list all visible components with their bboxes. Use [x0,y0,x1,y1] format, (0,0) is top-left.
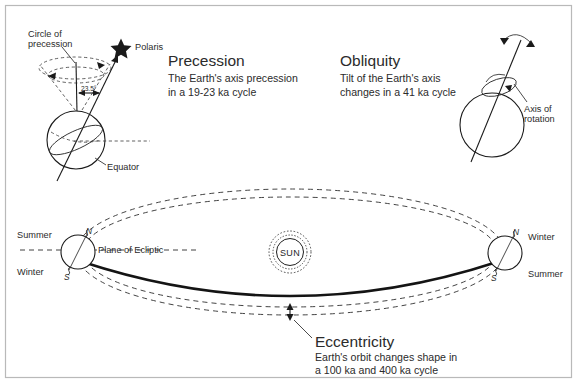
precession-heading: Precession [168,52,245,69]
milankovitch-diagram: Circle of precession Polaris 23.5° Equat… [0,0,580,391]
sun-label: SUN [280,248,300,258]
axis-of-rotation-label-line1: Axis of [524,104,552,114]
eccentricity-desc-line2: a 100 ka and 400 ka cycle [315,364,438,376]
left-earth-winter-label: Winter [17,267,44,277]
precession-desc-line1: The Earth's axis precession [168,72,298,84]
left-earth-south-pole-label: S [64,272,70,282]
obliquity-arrowhead-right [526,40,535,47]
figure-border [6,6,572,378]
axis-of-rotation-leader [514,84,527,102]
equator-label: Equator [107,162,139,172]
polaris-label: Polaris [135,42,163,52]
right-earth-north-pole-label: N [513,227,520,237]
obliquity-desc-line1: Tilt of the Earth's axis [340,72,441,84]
obliquity-arrowhead-left [500,38,509,45]
eccentricity-heading: Eccentricity [315,333,394,350]
eccentricity-leader-line [294,320,312,338]
polaris-star-icon [111,39,132,59]
obliquity-desc-line2: changes in a 41 ka cycle [340,86,456,98]
orbit-system: SUN N S Summer Winter N S [17,189,563,338]
left-earth-summer-label: Summer [17,230,52,240]
precession-leader-line [62,47,75,63]
precession-arrow-right [97,62,105,69]
eccentricity-arrowhead-down [287,314,294,321]
right-earth-summer-label: Summer [528,269,563,279]
eccentricity-desc-line1: Earth's orbit changes shape in [315,351,457,363]
left-earth-north-pole-label: N [86,226,93,236]
diagram-canvas: Circle of precession Polaris 23.5° Equat… [0,0,580,391]
vertical-reference-axis [76,62,77,113]
plane-of-ecliptic-label: Plane of Ecliptic [98,245,164,255]
rotation-spiral-arrowhead [505,85,512,92]
precession-desc-line2: in a 19-23 ka cycle [168,86,256,98]
tilt-angle-label: 23.5° [81,85,97,92]
precession-earth-globe [47,111,105,169]
right-earth-winter-label: Winter [528,232,555,242]
eccentricity-arrowhead-up [287,303,294,310]
circle-of-precession-label-line2: precession [28,39,72,49]
equator-leader-line [95,158,106,165]
precession-arrow-left [48,73,56,80]
cone-left-edge [40,65,79,115]
obliquity-earth-globe [460,93,524,157]
obliquity-illustration [460,35,535,162]
precession-illustration [39,39,150,182]
obliquity-heading: Obliquity [340,52,401,69]
right-earth-south-pole-label: S [491,273,497,283]
circle-of-precession-label-line1: Circle of [28,29,62,39]
axis-of-rotation-label-line2: rotation [524,114,555,124]
